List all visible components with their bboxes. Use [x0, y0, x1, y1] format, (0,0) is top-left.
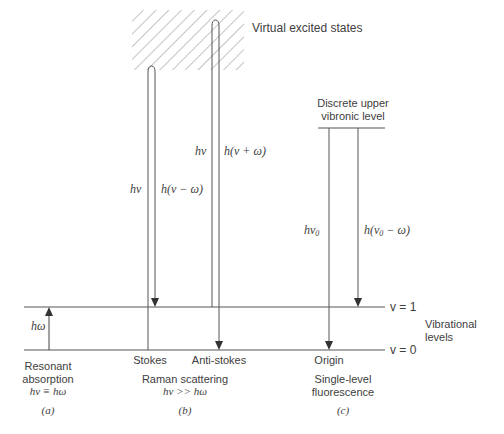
vibrational-levels-label-2: levels — [425, 331, 453, 344]
panel-label-a: (a) — [42, 404, 55, 417]
origin-sub-label: Origin — [314, 354, 343, 367]
virtual-states-hatch — [132, 10, 244, 70]
v1-label: v = 1 — [390, 301, 416, 314]
v0-label: v = 0 — [390, 344, 416, 357]
antistokes-up-label: hν — [195, 145, 206, 158]
stokes-down-label: h(ν − ω) — [161, 183, 203, 196]
origin-label: hν0 — [304, 224, 319, 240]
stokes-label: Stokes — [133, 354, 167, 367]
caption-c-2: fluorescence — [312, 386, 374, 399]
upper-level-label-2: vibronic level — [321, 110, 385, 123]
caption-a-eq: hν ≡ hω — [30, 385, 67, 398]
antistokes-down-label: h(ν + ω) — [224, 145, 266, 158]
upper-level-label-1: Discrete upper — [317, 97, 389, 110]
antistokes-label: Anti-stokes — [192, 354, 246, 367]
caption-a-1: Resonant — [24, 360, 71, 373]
stokes-up-label: hν — [130, 183, 141, 196]
panel-label-b: (b) — [179, 404, 192, 417]
shift-label: h(ν0 − ω) — [364, 224, 410, 240]
absorption-label: hω — [31, 320, 45, 333]
virtual-states-label: Virtual excited states — [252, 22, 363, 35]
caption-c-1: Single-level — [315, 373, 372, 386]
vibrational-levels-label-1: Vibrational — [425, 318, 477, 331]
panel-label-c: (c) — [337, 404, 349, 417]
energy-diagram-canvas — [0, 0, 504, 434]
caption-b-eq: hν >> hω — [163, 385, 207, 398]
